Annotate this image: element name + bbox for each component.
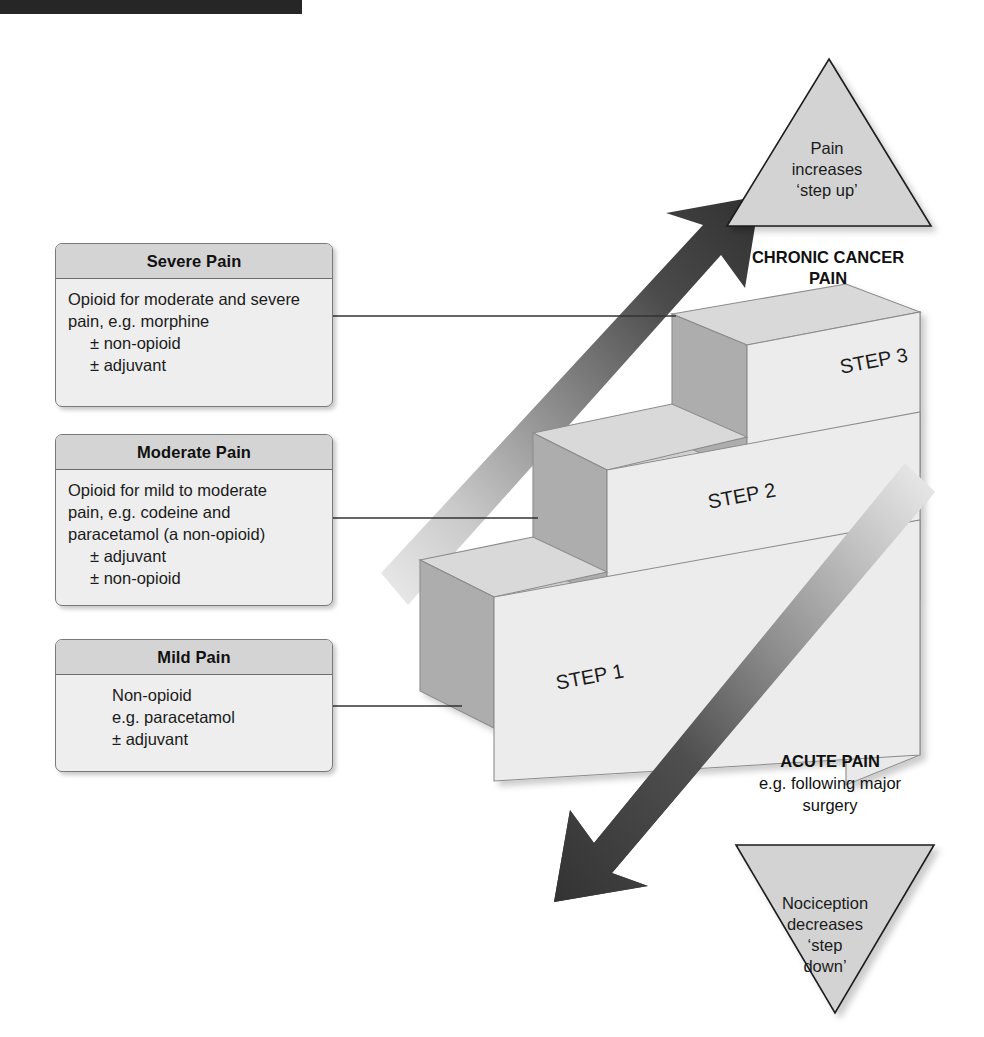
tri-down-line-1: Nociception xyxy=(764,893,886,914)
severe-pain-box-header: Severe Pain xyxy=(56,244,332,279)
mild-line-1: Non-opioid xyxy=(68,684,332,706)
moderate-line-3: paracetamol (a non-opioid) xyxy=(68,523,332,545)
mild-pain-box-header: Mild Pain xyxy=(56,640,332,675)
tri-down-line-3: ‘step xyxy=(764,935,886,956)
moderate-line-2: pain, e.g. codeine and xyxy=(68,501,332,523)
chronic-caption-line-2: PAIN xyxy=(733,268,923,289)
acute-caption-title: ACUTE PAIN xyxy=(700,750,960,772)
mild-pain-box: Mild Pain Non-opioid e.g. paracetamol ± … xyxy=(55,639,333,772)
pain-increases-triangle-text: Pain increases ‘step up’ xyxy=(762,138,892,201)
moderate-pain-box-header: Moderate Pain xyxy=(56,435,332,470)
moderate-pain-box-body: Opioid for mild to moderate pain, e.g. c… xyxy=(56,470,332,599)
diagram-canvas: Pain increases ‘step up’ Nociception dec… xyxy=(0,0,984,1037)
severe-line-1: Opioid for moderate and severe xyxy=(68,288,332,310)
acute-caption-line-2: surgery xyxy=(700,794,960,816)
acute-caption-line-1: e.g. following major xyxy=(700,772,960,794)
tri-up-line-1: Pain xyxy=(762,138,892,159)
severe-line-2: pain, e.g. morphine xyxy=(68,310,332,332)
mild-line-3: ± adjuvant xyxy=(68,728,332,750)
nociception-decreases-triangle-text: Nociception decreases ‘step down’ xyxy=(764,893,886,977)
severe-line-3: ± non-opioid xyxy=(68,332,332,354)
chronic-caption-line-1: CHRONIC CANCER xyxy=(733,247,923,268)
chronic-cancer-pain-caption: CHRONIC CANCER PAIN xyxy=(733,247,923,289)
moderate-pain-box: Moderate Pain Opioid for mild to moderat… xyxy=(55,434,333,606)
tri-up-line-3: ‘step up’ xyxy=(762,180,892,201)
mild-pain-box-body: Non-opioid e.g. paracetamol ± adjuvant xyxy=(56,675,332,760)
mild-line-2: e.g. paracetamol xyxy=(68,706,332,728)
moderate-line-1: Opioid for mild to moderate xyxy=(68,479,332,501)
severe-pain-box: Severe Pain Opioid for moderate and seve… xyxy=(55,243,333,407)
tri-down-line-4: down’ xyxy=(764,956,886,977)
moderate-line-4: ± adjuvant xyxy=(68,545,332,567)
acute-pain-caption: ACUTE PAIN e.g. following major surgery xyxy=(700,750,960,816)
tri-down-line-2: decreases xyxy=(764,914,886,935)
severe-pain-box-body: Opioid for moderate and severe pain, e.g… xyxy=(56,279,332,386)
tri-up-line-2: increases xyxy=(762,159,892,180)
moderate-line-5: ± non-opioid xyxy=(68,567,332,589)
severe-line-4: ± adjuvant xyxy=(68,354,332,376)
